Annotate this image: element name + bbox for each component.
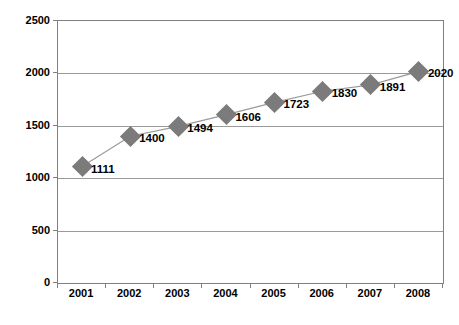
x-axis-tick-label: 2008 bbox=[388, 288, 448, 299]
series-line bbox=[58, 21, 443, 283]
data-point-label: 1494 bbox=[187, 124, 213, 136]
data-point-label: 2020 bbox=[428, 69, 454, 81]
y-axis-tick-label: 500 bbox=[2, 224, 50, 235]
data-point-label: 1891 bbox=[380, 82, 406, 94]
y-axis-tick-label: 2000 bbox=[2, 67, 50, 78]
plot-area: 11111400149416061723183018912020 bbox=[57, 20, 444, 284]
data-point-label: 1111 bbox=[91, 164, 115, 176]
data-point-label: 1723 bbox=[284, 100, 310, 112]
data-point-label: 1400 bbox=[139, 134, 165, 146]
x-axis: 20012002200320042005200620072008 bbox=[57, 288, 442, 308]
chart-figure: 05001000150020002500 1111140014941606172… bbox=[0, 0, 459, 325]
y-axis-tick-label: 1000 bbox=[2, 172, 50, 183]
data-point-label: 1606 bbox=[235, 112, 261, 124]
y-axis: 05001000150020002500 bbox=[0, 20, 50, 282]
y-axis-tick-label: 1500 bbox=[2, 119, 50, 130]
y-axis-tick-label: 0 bbox=[2, 277, 50, 288]
data-point-label: 1830 bbox=[332, 88, 358, 100]
y-axis-tick-label: 2500 bbox=[2, 15, 50, 26]
